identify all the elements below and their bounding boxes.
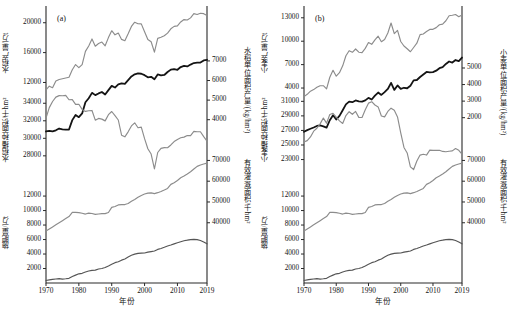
axis-tick-label: 23000 xyxy=(281,156,299,163)
axis-tick-label: 4000 xyxy=(467,81,481,88)
axis-tick-label: 28000 xyxy=(23,152,41,159)
axis-title: 施肥量/万t xyxy=(2,182,10,282)
data-series-line xyxy=(46,60,207,132)
x-axis-tick-label: 2000 xyxy=(385,287,417,295)
axis-tick-label: 32000 xyxy=(23,117,41,124)
axis-tick-label: 70000 xyxy=(212,157,230,164)
axis-tick-label: 70000 xyxy=(467,157,485,164)
axis-tick-label: 12000 xyxy=(23,192,41,199)
axis-title: 小麦播种面积/千hm² xyxy=(261,80,269,180)
x-axis-tick-label: 1980 xyxy=(320,287,352,295)
axis-tick-label: 2000 xyxy=(467,114,481,121)
data-series-line xyxy=(304,239,462,280)
x-axis-tick-label: 2000 xyxy=(129,287,161,295)
x-axis-tick-label: 1970 xyxy=(288,287,320,295)
axis-tick-label: 4000 xyxy=(212,116,226,123)
axis-tick-label: 4000 xyxy=(27,250,41,257)
x-axis-title: 年份 xyxy=(97,297,157,306)
x-axis-tick-label: 2019 xyxy=(191,287,223,295)
x-axis-tick-label: 1970 xyxy=(30,287,62,295)
data-series-line xyxy=(304,163,462,231)
data-series-line xyxy=(46,239,207,280)
axis-tick-label: 40000 xyxy=(467,219,485,226)
axis-tick-label: 2000 xyxy=(27,265,41,272)
x-axis-tick-label: 2010 xyxy=(417,287,449,295)
axis-tick-label: 7000 xyxy=(212,57,226,64)
axis-title: 水稻播种面积/千hm² xyxy=(2,80,10,180)
axis-tick-label: 7000 xyxy=(285,61,299,68)
axis-tick-label: 60000 xyxy=(212,177,230,184)
axis-tick-label: 5000 xyxy=(212,96,226,103)
axis-title: 施肥量/万t xyxy=(261,182,269,282)
figure-panel-group: (a) 120001600020000水稻产量/万t40005000600070… xyxy=(0,0,526,320)
x-axis-tick-label: 2010 xyxy=(161,287,193,295)
axis-tick-label: 10000 xyxy=(23,207,41,214)
axis-tick-label: 12000 xyxy=(281,192,299,199)
x-axis-tick-label: 1980 xyxy=(63,287,95,295)
axis-tick-label: 25000 xyxy=(281,141,299,148)
axis-tick-label: 6000 xyxy=(27,236,41,243)
axis-tick-label: 31000 xyxy=(281,98,299,105)
axis-tick-label: 30000 xyxy=(23,135,41,142)
chart-panel-wheat: (b) 400070001000013000小麦产量/万t20003000400… xyxy=(259,0,526,300)
axis-tick-label: 6000 xyxy=(212,77,226,84)
data-series-line xyxy=(304,14,462,96)
axis-tick-label: 6000 xyxy=(285,236,299,243)
axis-tick-label: 20000 xyxy=(23,19,41,26)
chart-panel-rice: (a) 120001600020000水稻产量/万t40005000600070… xyxy=(0,0,263,300)
axis-tick-label: 10000 xyxy=(281,207,299,214)
axis-tick-label: 50000 xyxy=(467,198,485,205)
data-series-line xyxy=(46,163,207,231)
axis-tick-label: 4000 xyxy=(285,250,299,257)
axis-tick-label: 3000 xyxy=(467,97,481,104)
data-series-line xyxy=(304,102,462,170)
axis-tick-label: 8000 xyxy=(27,221,41,228)
data-series-line xyxy=(46,95,207,169)
axis-tick-label: 16000 xyxy=(23,49,41,56)
axis-tick-label: 34000 xyxy=(23,99,41,106)
axis-tick-label: 12000 xyxy=(23,79,41,86)
x-axis-tick-label: 1990 xyxy=(352,287,384,295)
axis-tick-label: 13000 xyxy=(281,14,299,21)
axis-title: 有效灌溉面积/千hm² xyxy=(499,142,507,242)
axis-tick-label: 10000 xyxy=(281,37,299,44)
axis-tick-label: 29000 xyxy=(281,112,299,119)
data-series-line xyxy=(46,13,207,90)
axis-tick-label: 40000 xyxy=(212,219,230,226)
axis-tick-label: 5000 xyxy=(467,64,481,71)
axis-tick-label: 60000 xyxy=(467,177,485,184)
axis-tick-label: 27000 xyxy=(281,127,299,134)
axis-tick-label: 50000 xyxy=(212,198,230,205)
axis-title: 有效灌溉面积/千hm² xyxy=(243,142,251,242)
axis-title: 小麦单位面积产量/(kg/hm²) xyxy=(499,43,507,143)
axis-title: 水稻单位面积产量/(kg/hm²) xyxy=(243,40,251,140)
axis-tick-label: 4000 xyxy=(285,84,299,91)
x-axis-title: 年份 xyxy=(353,297,413,306)
x-axis-tick-label: 2019 xyxy=(446,287,478,295)
axis-tick-label: 2000 xyxy=(285,265,299,272)
axis-tick-label: 8000 xyxy=(285,221,299,228)
x-axis-tick-label: 1990 xyxy=(96,287,128,295)
plot-canvas xyxy=(259,0,526,300)
